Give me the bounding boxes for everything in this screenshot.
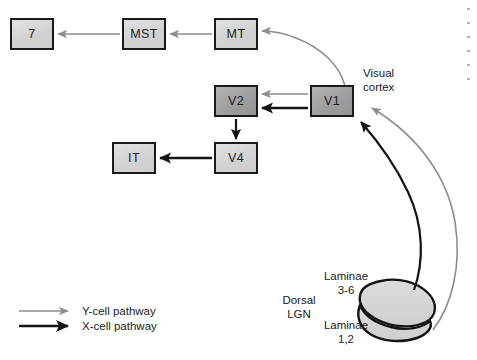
- node-area-7[interactable]: 7: [10, 18, 54, 50]
- label-laminae-3-6: Laminae 3-6: [316, 269, 376, 298]
- legend-item-y-cell: Y-cell pathway: [18, 303, 157, 318]
- node-v1[interactable]: V1: [310, 85, 354, 117]
- label-visual-cortex: Visual cortex: [363, 66, 394, 95]
- diagram-canvas: 7 MST MT V2 V1 V4 IT Visual cortex Dorsa…: [0, 0, 477, 360]
- legend: Y-cell pathway X-cell pathway: [18, 303, 157, 333]
- connection-v1-to-mt: [262, 31, 345, 86]
- node-label: MT: [227, 27, 246, 41]
- x-pathway-arrow-icon: [18, 320, 76, 332]
- node-mt[interactable]: MT: [214, 18, 258, 50]
- node-label: IT: [128, 151, 140, 165]
- node-label: V1: [324, 94, 340, 108]
- node-mst[interactable]: MST: [122, 18, 166, 50]
- node-label: MST: [130, 27, 158, 41]
- clipped-margin-text-fragment: [467, 8, 477, 92]
- y-pathway-arrow-icon: [18, 305, 76, 317]
- node-label: 7: [28, 27, 35, 41]
- node-it[interactable]: IT: [112, 142, 156, 174]
- node-label: V2: [228, 94, 244, 108]
- legend-label: X-cell pathway: [82, 320, 157, 332]
- node-v2[interactable]: V2: [214, 85, 258, 117]
- legend-label: Y-cell pathway: [82, 305, 156, 317]
- label-laminae-1-2: Laminae 1,2: [316, 318, 376, 347]
- node-label: V4: [228, 151, 244, 165]
- legend-item-x-cell: X-cell pathway: [18, 318, 157, 333]
- connection-laminae36-to-v1: [361, 122, 421, 290]
- node-v4[interactable]: V4: [214, 142, 258, 174]
